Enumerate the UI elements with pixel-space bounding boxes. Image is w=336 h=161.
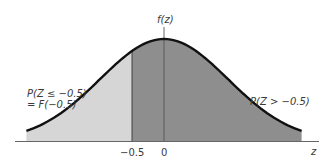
right-region-area bbox=[132, 39, 302, 141]
xtick-label-neg-half: −0.5 bbox=[120, 147, 144, 158]
y-axis-label: f(z) bbox=[157, 14, 174, 25]
left-tail-label-line2: = F(−0.5) bbox=[27, 99, 76, 110]
left-tail-label-line1: P(Z ≤ −0.5) bbox=[27, 88, 87, 99]
x-axis-label: z bbox=[311, 146, 316, 157]
xtick-label-zero: 0 bbox=[161, 147, 167, 158]
right-region-label: P(Z > −0.5) bbox=[250, 96, 310, 107]
